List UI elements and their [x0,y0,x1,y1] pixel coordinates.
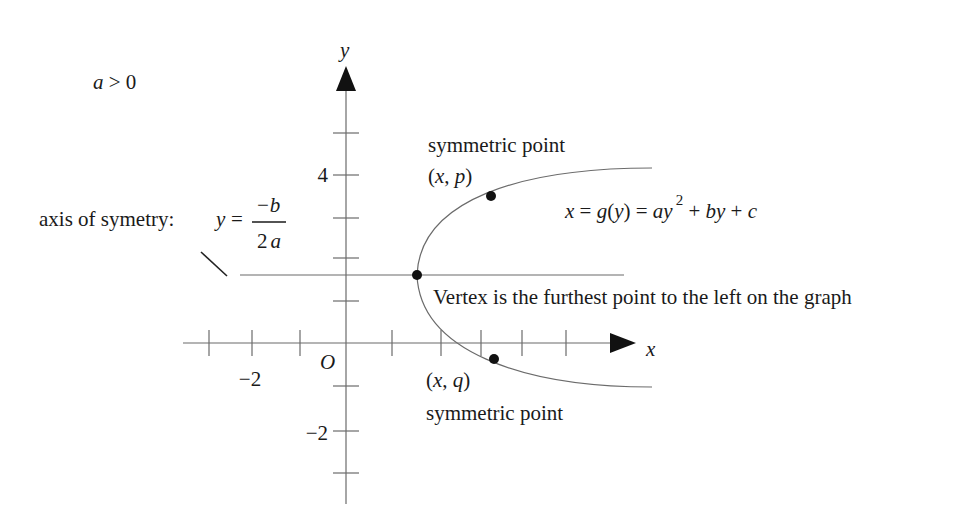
x-axis-label: x [645,337,656,361]
symmetric-point-q [489,354,499,364]
parabola-diagram: a > 0 y 4 −2 x −2 O axis of syme [0,0,980,518]
origin-label: O [320,350,335,374]
fraction-denominator: 2a [257,229,281,253]
vertex-point [412,270,422,280]
symmetric-point-upper-label: symmetric point [428,133,565,157]
point-p-coordinates: (x, p) [428,164,472,188]
point-q-coordinates: (x, q) [426,368,470,392]
symmetric-point-p [486,191,496,201]
y-axis-label: y [338,38,350,62]
y-axis-arrowhead-icon [336,66,356,91]
fraction-numerator: −b [256,193,281,217]
symmetric-point-lower-label: symmetric point [426,401,563,425]
x-axis: x −2 O [183,330,656,391]
axis-of-symmetry-pointer [201,252,227,276]
y-tick-label-neg2: −2 [306,421,328,445]
condition-label: a > 0 [93,70,136,94]
y-axis: y 4 −2 [306,38,359,504]
svg-text:axis of symetry:: axis of symetry: [39,207,174,231]
vertex-note: Vertex is the furthest point to the left… [433,285,852,309]
x-tick-label-neg2: −2 [239,367,261,391]
x-axis-arrowhead-icon [610,333,636,353]
svg-text:=: = [231,207,243,231]
axis-of-symmetry-label: axis of symetry: y = −b 2a [39,193,286,253]
svg-text:y: y [214,207,226,231]
y-tick-label-4: 4 [318,163,329,187]
parabola-equation: x = g(y) = ay2 + by + c [564,192,758,223]
